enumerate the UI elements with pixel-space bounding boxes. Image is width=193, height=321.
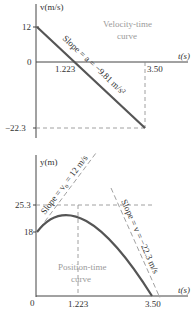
tick-label-0-top: 0 [27, 57, 32, 67]
velocity-line [37, 27, 145, 128]
tick-label-1223-bottom: 1.223 [68, 299, 89, 309]
tick-label-350-bottom: 3.50 [145, 299, 161, 309]
t-axis-label-top: t(s) [178, 51, 190, 61]
tick-label-1223-top: 1.223 [55, 64, 76, 74]
tick-label-12: 12 [22, 22, 31, 32]
kinematics-figure: v(m/s) t(s) 12 0 −22.3 1.223 3.50 Veloci… [0, 0, 193, 321]
velocity-time-chart: v(m/s) t(s) 12 0 −22.3 1.223 3.50 Veloci… [5, 2, 190, 138]
t-axis-label-bottom: t(s) [178, 285, 190, 295]
position-time-chart: y(m) t(s) 25.3 18 0 1.223 3.50 Position-… [15, 153, 190, 309]
y-axis-label: y(m) [40, 157, 58, 167]
position-curve-label: Position-time [58, 262, 107, 272]
velocity-curve-label-2: curve [117, 31, 137, 41]
tick-label-18: 18 [24, 227, 34, 237]
position-curve-label-2: curve [71, 274, 91, 284]
tick-label-253: 25.3 [15, 200, 31, 210]
tick-label-350-top: 3.50 [147, 64, 163, 74]
velocity-curve-label: Velocity-time [103, 19, 152, 29]
v-axis-label: v(m/s) [40, 2, 64, 12]
slope-v-label: Slope = v = −22.3 m/s [119, 198, 161, 276]
tick-label-0-bottom: 0 [30, 298, 35, 308]
tick-label-neg: −22.3 [5, 123, 26, 133]
tangent-v [111, 188, 160, 298]
